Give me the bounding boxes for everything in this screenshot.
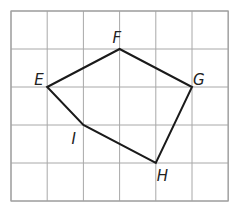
vertex-label-e: E	[34, 71, 44, 89]
vertex-label-i: I	[71, 130, 76, 148]
vertex-label-f: F	[113, 29, 122, 47]
vertex-label-h: H	[157, 167, 168, 185]
grid-polygon-diagram: EFGHI	[0, 0, 235, 216]
vertex-label-g: G	[193, 71, 205, 89]
